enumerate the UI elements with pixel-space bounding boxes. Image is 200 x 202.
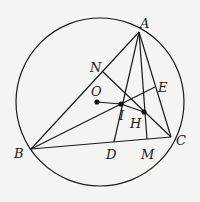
segment-OI — [97, 102, 121, 104]
label-A: A — [139, 16, 149, 31]
label-E: E — [157, 80, 168, 95]
label-B: B — [13, 146, 24, 161]
label-N: N — [89, 60, 102, 75]
point-H — [141, 109, 146, 114]
label-O: O — [91, 84, 102, 99]
label-M: M — [140, 147, 155, 162]
point-I — [118, 101, 123, 106]
geometry-diagram: A B C N E O I H D M — [0, 0, 200, 202]
label-C: C — [176, 133, 186, 148]
label-D: D — [105, 147, 117, 162]
point-O — [94, 99, 99, 104]
label-H: H — [129, 116, 142, 131]
label-I: I — [118, 108, 125, 123]
